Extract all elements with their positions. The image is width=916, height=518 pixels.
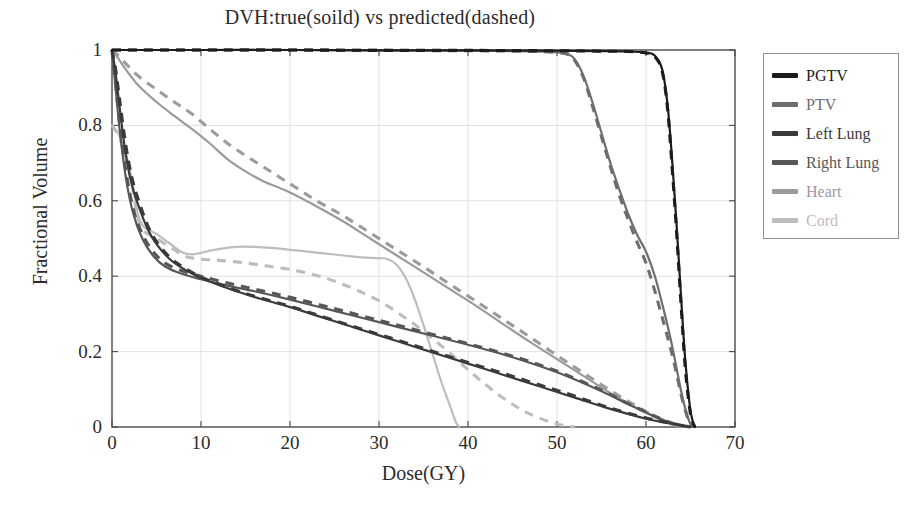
legend-item-heart[interactable]: Heart bbox=[764, 177, 898, 206]
x-tick-label: 0 bbox=[107, 432, 117, 454]
y-tick-label: 0.2 bbox=[56, 341, 102, 363]
x-tick-label: 50 bbox=[548, 432, 567, 454]
legend: PGTVPTVLeft LungRight LungHeartCord bbox=[763, 53, 899, 239]
legend-line-swatch-icon bbox=[772, 102, 798, 107]
y-tick-label: 0.4 bbox=[56, 265, 102, 287]
legend-item-label: Heart bbox=[806, 183, 842, 201]
y-axis-label: Fractional Volume bbox=[29, 102, 52, 322]
y-tick-label: 0.8 bbox=[56, 114, 102, 136]
y-tick-label: 0.6 bbox=[56, 190, 102, 212]
series-ptv bbox=[112, 50, 692, 427]
legend-item-label: PGTV bbox=[806, 67, 848, 85]
y-tick-label: 1 bbox=[56, 39, 102, 61]
legend-item-label: PTV bbox=[806, 96, 836, 114]
predicted-dashed-line bbox=[112, 50, 682, 427]
x-tick-label: 10 bbox=[192, 432, 211, 454]
y-tick-label: 0 bbox=[56, 416, 102, 438]
x-axis-label: Dose(GY) bbox=[112, 462, 735, 485]
x-tick-label: 40 bbox=[459, 432, 478, 454]
series-heart bbox=[112, 50, 682, 427]
series-left-lung bbox=[112, 50, 691, 427]
true-solid-line bbox=[112, 50, 682, 427]
true-solid-line bbox=[112, 50, 695, 427]
legend-line-swatch-icon bbox=[772, 189, 798, 194]
true-solid-line bbox=[112, 50, 691, 427]
legend-item-ptv[interactable]: PTV bbox=[764, 90, 898, 119]
x-tick-label: 30 bbox=[370, 432, 389, 454]
axes-frame bbox=[112, 50, 735, 427]
predicted-dashed-line bbox=[112, 50, 695, 427]
x-tick-label: 60 bbox=[637, 432, 656, 454]
x-tick-label: 70 bbox=[726, 432, 745, 454]
legend-line-swatch-icon bbox=[772, 73, 798, 78]
true-solid-line bbox=[112, 50, 692, 427]
legend-item-pgtv[interactable]: PGTV bbox=[764, 61, 898, 90]
dvh-curves bbox=[112, 50, 695, 427]
gridlines bbox=[112, 50, 735, 427]
axis-ticks bbox=[112, 50, 735, 427]
legend-item-right-lung[interactable]: Right Lung bbox=[764, 148, 898, 177]
dvh-figure: DVH:true(soild) vs predicted(dashed) Dos… bbox=[0, 0, 916, 518]
true-solid-line bbox=[112, 50, 691, 427]
predicted-dashed-line bbox=[112, 50, 692, 427]
series-pgtv bbox=[112, 50, 695, 427]
legend-line-swatch-icon bbox=[772, 218, 798, 223]
predicted-dashed-line bbox=[112, 50, 691, 427]
legend-item-label: Left Lung bbox=[806, 125, 870, 143]
legend-item-label: Cord bbox=[806, 212, 838, 230]
legend-item-label: Right Lung bbox=[806, 154, 879, 172]
x-tick-label: 20 bbox=[281, 432, 300, 454]
legend-line-swatch-icon bbox=[772, 131, 798, 136]
series-right-lung bbox=[112, 50, 691, 427]
legend-item-left-lung[interactable]: Left Lung bbox=[764, 119, 898, 148]
legend-line-swatch-icon bbox=[772, 160, 798, 165]
legend-item-cord[interactable]: Cord bbox=[764, 206, 898, 235]
predicted-dashed-line bbox=[112, 50, 691, 427]
